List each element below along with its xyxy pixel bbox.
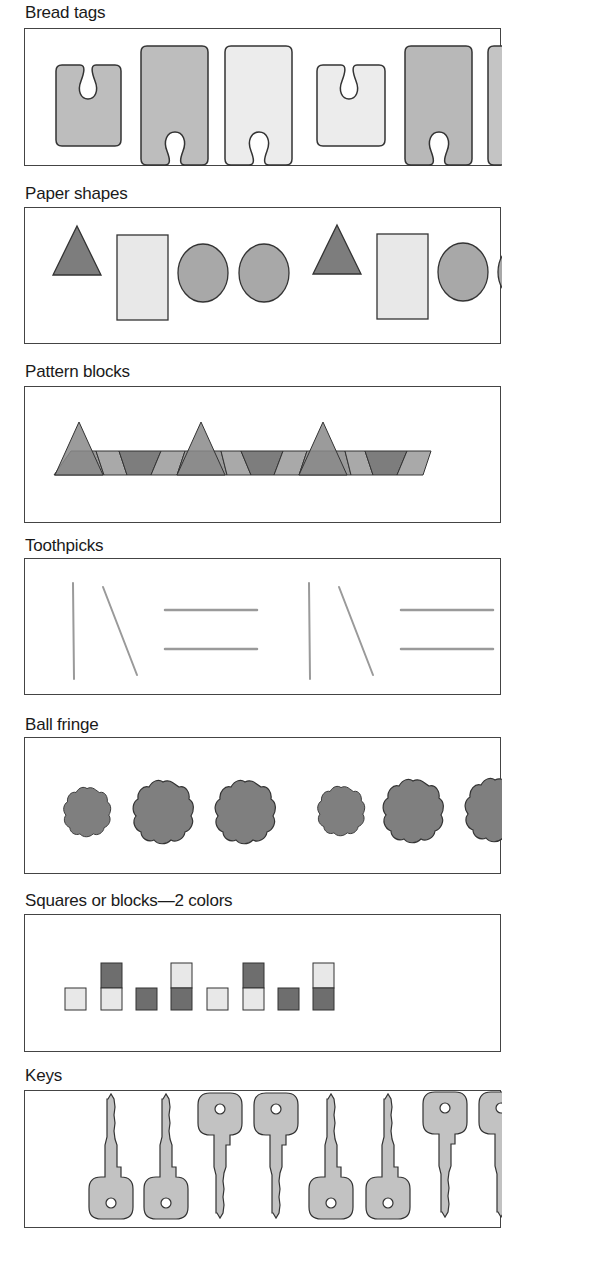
panel-paper-shapes bbox=[24, 207, 501, 344]
bread-tag-icon bbox=[56, 65, 121, 146]
fringe-ball-icon bbox=[215, 780, 275, 843]
triangle-block bbox=[177, 422, 225, 475]
bread-tag-icon bbox=[141, 46, 208, 165]
light-square bbox=[313, 963, 334, 988]
keys-illustration bbox=[25, 1091, 502, 1229]
key-icon bbox=[144, 1094, 188, 1219]
triangle-block bbox=[299, 422, 347, 475]
section-title-paper-shapes: Paper shapes bbox=[25, 184, 128, 204]
circle-icon bbox=[438, 243, 488, 301]
section-title-toothpicks: Toothpicks bbox=[25, 536, 103, 556]
circle-icon bbox=[498, 243, 502, 301]
bread-tag-icon bbox=[225, 46, 292, 165]
dark-square bbox=[313, 988, 334, 1010]
key-icon bbox=[309, 1094, 353, 1219]
toothpick-slanted bbox=[103, 587, 137, 675]
section-title-pattern-blocks: Pattern blocks bbox=[25, 362, 130, 382]
bread-tag-icon bbox=[317, 65, 385, 146]
section-title-squares-blocks: Squares or blocks—2 colors bbox=[25, 891, 232, 911]
panel-squares-blocks bbox=[24, 914, 501, 1052]
dark-square bbox=[136, 988, 157, 1010]
key-icon bbox=[366, 1094, 410, 1219]
triangle-block bbox=[55, 422, 103, 475]
fringe-ball-icon bbox=[64, 787, 111, 836]
squares-blocks-illustration bbox=[25, 915, 502, 1053]
dark-square bbox=[101, 963, 122, 988]
toothpicks-illustration bbox=[25, 559, 502, 696]
panel-toothpicks bbox=[24, 558, 501, 695]
ball-fringe-illustration bbox=[25, 738, 502, 875]
section-title-ball-fringe: Ball fringe bbox=[25, 715, 98, 735]
bread-tag-icon bbox=[405, 46, 472, 165]
fringe-ball-icon bbox=[133, 780, 193, 843]
section-title-bread-tags: Bread tags bbox=[25, 3, 105, 23]
toothpick-vertical bbox=[309, 583, 310, 679]
dark-square bbox=[243, 963, 264, 988]
triangle-icon bbox=[313, 225, 361, 274]
bread-tags-illustration bbox=[25, 29, 502, 167]
key-icon bbox=[479, 1092, 502, 1217]
toothpick-vertical bbox=[73, 583, 74, 679]
circle-icon bbox=[239, 244, 289, 302]
key-icon bbox=[89, 1094, 133, 1219]
key-icon bbox=[423, 1092, 467, 1217]
key-icon bbox=[254, 1093, 298, 1218]
fringe-ball-icon bbox=[465, 778, 502, 841]
toothpick-slanted bbox=[339, 587, 373, 675]
dark-square bbox=[278, 988, 299, 1010]
light-square bbox=[65, 988, 86, 1010]
panel-keys bbox=[24, 1090, 501, 1228]
rectangle-icon bbox=[377, 234, 428, 319]
key-icon bbox=[198, 1093, 242, 1218]
light-square bbox=[101, 988, 122, 1010]
fringe-ball-icon bbox=[383, 779, 443, 842]
rectangle-icon bbox=[117, 235, 168, 320]
pattern-blocks-illustration bbox=[25, 387, 502, 524]
panel-bread-tags bbox=[24, 28, 501, 166]
section-title-keys: Keys bbox=[25, 1066, 62, 1086]
dark-square bbox=[171, 988, 192, 1010]
paper-shapes-illustration bbox=[25, 208, 502, 345]
fringe-ball-icon bbox=[318, 786, 365, 835]
circle-icon bbox=[178, 244, 228, 302]
panel-pattern-blocks bbox=[24, 386, 501, 523]
triangle-icon bbox=[53, 226, 101, 275]
bread-tag-icon bbox=[488, 46, 502, 165]
panel-ball-fringe bbox=[24, 737, 501, 874]
light-square bbox=[207, 988, 228, 1010]
light-square bbox=[243, 988, 264, 1010]
light-square bbox=[171, 963, 192, 988]
